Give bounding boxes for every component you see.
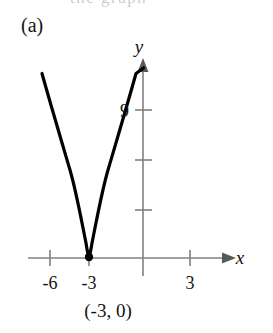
x-axis-label: x — [235, 247, 245, 268]
x-tick-label-minus3: -3 — [82, 273, 97, 293]
figure-panel-a: the graph (a) y x -6 -3 3 9 (-3, — [0, 0, 273, 333]
y-axis-label: y — [133, 36, 144, 57]
x-tick-label-minus6: -6 — [43, 273, 58, 293]
x-axis-arrow-icon — [222, 253, 236, 264]
vertex-point-marker — [85, 253, 93, 261]
parabola-curve — [42, 68, 144, 258]
y-tick-label-9: 9 — [120, 101, 129, 121]
vertex-annotation-label: (-3, 0) — [84, 300, 131, 322]
parabola-plot: y x -6 -3 3 9 (-3, 0) — [0, 0, 273, 333]
x-tick-label-3: 3 — [186, 273, 195, 293]
